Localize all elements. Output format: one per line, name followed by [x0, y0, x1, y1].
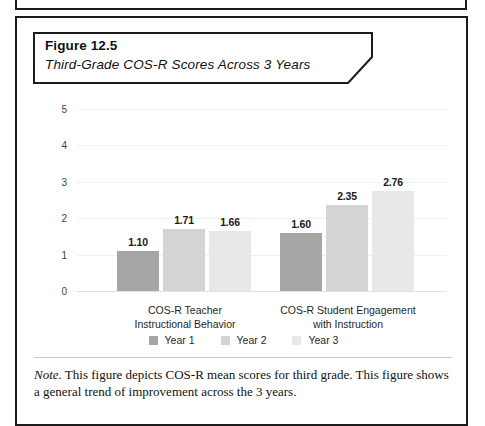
- legend-swatch-icon: [149, 336, 158, 345]
- legend-item: Year 2: [221, 334, 267, 346]
- legend-item: Year 1: [149, 334, 195, 346]
- figure-title-callout: Figure 12.5 Third-Grade COS-R Scores Acr…: [33, 32, 373, 84]
- bar: 1.66: [209, 231, 251, 291]
- figure-frame: Figure 12.5 Third-Grade COS-R Scores Acr…: [15, 16, 468, 426]
- bar: 1.60: [280, 233, 322, 291]
- category-label-line: with Instruction: [262, 318, 434, 332]
- legend-swatch-icon: [221, 336, 230, 345]
- figure-subtitle: Third-Grade COS-R Scores Across 3 Years: [45, 55, 355, 75]
- legend-item: Year 3: [292, 334, 338, 346]
- bar-value-label: 1.66: [220, 216, 240, 228]
- chart-legend: Year 1Year 2Year 3: [17, 334, 470, 346]
- category-label-line: Instructional Behavior: [99, 318, 271, 332]
- chart-bars: 1.101.711.661.602.352.76: [37, 96, 447, 302]
- legend-label: Year 3: [308, 334, 338, 346]
- bar: 1.71: [163, 229, 205, 291]
- category-label-line: COS-R Student Engagement: [262, 304, 434, 318]
- clipped-upper-figure-box: [15, 0, 467, 10]
- bar: 2.76: [372, 191, 414, 291]
- legend-swatch-icon: [292, 336, 301, 345]
- chart-category-labels: COS-R TeacherInstructional BehaviorCOS-R…: [37, 304, 447, 334]
- bar-value-label: 1.60: [291, 218, 311, 230]
- bar-value-label: 2.35: [337, 190, 357, 202]
- figure-note: Note. This figure depicts COS-R mean sco…: [34, 366, 454, 400]
- chart-plot-area: 012345 1.101.711.661.602.352.76: [37, 96, 447, 302]
- bar-value-label: 1.71: [174, 214, 194, 226]
- legend-label: Year 1: [165, 334, 195, 346]
- bar-value-label: 1.10: [128, 236, 148, 248]
- figure-number: Figure 12.5: [45, 37, 355, 55]
- note-separator: [34, 357, 452, 358]
- legend-label: Year 2: [237, 334, 267, 346]
- bar: 2.35: [326, 205, 368, 291]
- note-label: Note.: [34, 367, 62, 382]
- note-text: This figure depicts COS-R mean scores fo…: [34, 367, 449, 399]
- category-label: COS-R TeacherInstructional Behavior: [99, 304, 271, 331]
- bar-value-label: 2.76: [383, 176, 403, 188]
- category-label-line: COS-R Teacher: [99, 304, 271, 318]
- category-label: COS-R Student Engagementwith Instruction: [262, 304, 434, 331]
- bar: 1.10: [117, 251, 159, 291]
